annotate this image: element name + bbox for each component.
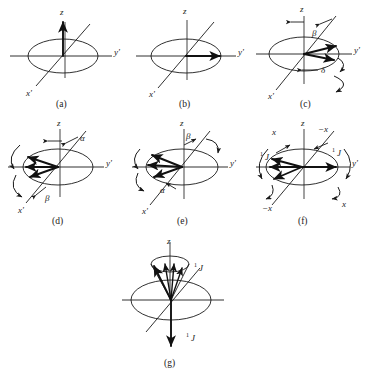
angle-label-beta: β — [185, 131, 191, 141]
angle-label-alpha: α — [160, 185, 165, 195]
panel-b: z y' x' (b) — [124, 0, 248, 110]
axis-label-x-prime: x' — [267, 91, 275, 101]
panel-c: β δ z y' x' (c) — [248, 0, 372, 110]
axis-label-x-prime: x' — [25, 88, 33, 98]
panel-caption-e: (e) — [177, 216, 188, 227]
coupling-label-j-down: 1 J — [186, 332, 196, 343]
coupling-label-j-right: 1 J — [332, 147, 342, 158]
axis-label-z: z — [56, 118, 61, 128]
axis-label-y-prime: y' — [105, 158, 113, 168]
axis-label-x-prime: x' — [148, 89, 156, 99]
panel-caption-d: (d) — [52, 216, 63, 227]
angle-label-alpha: α — [80, 133, 85, 143]
panel-g: z 1 J 1 J (g) — [108, 236, 258, 371]
coupling-superscript: 1 — [194, 262, 197, 268]
axis-label-z: z — [299, 4, 304, 14]
coupling-superscript: 1 — [260, 151, 263, 157]
panel-caption-b: (b) — [179, 99, 190, 110]
angle-label-beta: β — [311, 28, 317, 38]
axis-label-z: z — [166, 236, 171, 246]
angle-label-delta: δ — [321, 65, 326, 75]
axis-label-y-prime: y' — [237, 47, 245, 57]
axis-label-z: z — [182, 6, 187, 16]
panel-e: β α z y' x' (e) — [122, 115, 246, 227]
axis-label-z: z — [59, 7, 64, 17]
axis-label-x-prime: x' — [141, 206, 149, 216]
angle-label-beta: β — [44, 193, 50, 203]
panel-caption-a: (a) — [56, 99, 67, 110]
axis-label-y-prime: y' — [113, 47, 121, 57]
coupling-symbol: J — [265, 152, 270, 162]
axis-label-z: z — [300, 118, 305, 128]
phase-label-x-bottom-right: x — [341, 199, 346, 209]
panel-caption-g: (g) — [164, 358, 175, 369]
axis-label-y-prime: y' — [229, 158, 237, 168]
axis-label-x-prime: x' — [17, 205, 25, 215]
panel-caption-c: (c) — [300, 99, 311, 110]
axis-label-y-prime: y' — [351, 158, 359, 168]
coupling-superscript: 1 — [332, 147, 335, 153]
panel-f: z y' x −x −x x 1 J 1 J (f) — [246, 115, 372, 227]
coupling-label-j-left: 1 J — [260, 151, 270, 162]
panel-d: α β z y' x' (d) — [0, 115, 124, 227]
coupling-symbol: J — [199, 263, 204, 273]
panel-a: z y' x' (a) — [0, 0, 124, 110]
phase-label-x-top-left: x — [271, 127, 276, 137]
coupling-symbol: J — [191, 333, 196, 343]
coupling-superscript: 1 — [186, 332, 189, 338]
axis-label-y-prime: y' — [353, 45, 361, 55]
phase-label-minus-x-top-right: −x — [318, 124, 328, 134]
coupling-label-j-cone: 1 J — [194, 262, 204, 273]
axis-label-z: z — [179, 118, 184, 128]
panel-caption-f: (f) — [298, 216, 308, 227]
coupling-symbol: J — [337, 148, 342, 158]
phase-label-minus-x-bottom-left: −x — [262, 203, 272, 213]
nmr-vector-model-figure: z y' x' (a) z y' x' (b) — [0, 0, 372, 371]
